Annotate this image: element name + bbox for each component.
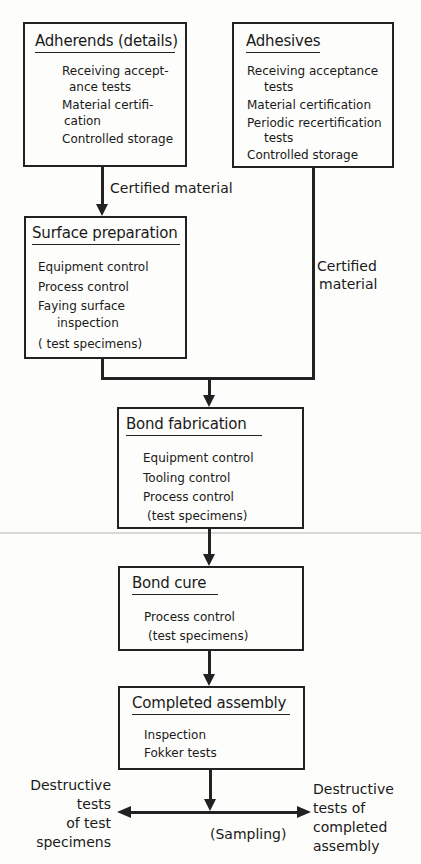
label-line: tests of bbox=[313, 799, 394, 818]
completed-assembly-line: Fokker tests bbox=[144, 746, 217, 760]
bond-fabrication-box: Bond fabrication Equipment control Tooli… bbox=[117, 407, 304, 529]
sampling-label: (Sampling) bbox=[210, 826, 286, 842]
adhesives-line: tests bbox=[264, 131, 293, 145]
adherends-line: Material certifi- bbox=[62, 98, 153, 112]
bond-cure-box: Bond cure Process control (test specimen… bbox=[118, 566, 304, 651]
surface-preparation-line: Process control bbox=[38, 280, 129, 294]
arrow-down-icon bbox=[204, 799, 216, 811]
connector-line bbox=[101, 167, 104, 205]
connector-line bbox=[209, 770, 212, 802]
bond-cure-line: Process control bbox=[144, 610, 235, 624]
adhesives-line: tests bbox=[264, 80, 293, 94]
bond-fabrication-line: Process control bbox=[143, 490, 234, 504]
bond-fabrication-line: Tooling control bbox=[143, 471, 230, 485]
adherends-title: Adherends (details) bbox=[35, 32, 175, 53]
surface-preparation-title: Surface preparation bbox=[32, 224, 180, 245]
adherends-line: Controlled storage bbox=[62, 132, 173, 146]
label-line: material bbox=[317, 275, 377, 293]
completed-assembly-box: Completed assembly Inspection Fokker tes… bbox=[118, 686, 305, 770]
adherends-box: Adherends (details) Receiving accept- an… bbox=[23, 22, 187, 167]
bond-fabrication-line: Equipment control bbox=[143, 451, 254, 465]
adhesives-line: Periodic recertification bbox=[247, 116, 382, 130]
connector-line bbox=[208, 378, 211, 396]
completed-assembly-line: Inspection bbox=[144, 728, 206, 742]
arrow-down-icon bbox=[96, 204, 108, 216]
completed-assembly-title: Completed assembly bbox=[132, 694, 290, 715]
certified-material-label: Certified material bbox=[110, 180, 233, 196]
label-line: tests bbox=[10, 795, 111, 814]
arrow-down-icon bbox=[203, 554, 215, 566]
adhesives-box: Adhesives Receiving acceptance tests Mat… bbox=[232, 22, 394, 168]
label-line: assembly bbox=[313, 837, 394, 856]
adhesives-line: Material certification bbox=[247, 98, 371, 112]
bond-fabrication-title: Bond fabrication bbox=[126, 415, 262, 436]
bond-cure-title: Bond cure bbox=[132, 574, 218, 595]
bond-fabrication-line: (test specimens) bbox=[147, 509, 247, 523]
connector-line bbox=[312, 168, 315, 380]
connector-line bbox=[208, 651, 211, 675]
surface-preparation-line: ( test specimens) bbox=[38, 337, 142, 351]
arrow-down-icon bbox=[203, 674, 215, 686]
surface-preparation-line: inspection bbox=[57, 316, 119, 330]
adhesives-title: Adhesives bbox=[246, 32, 320, 53]
sampling-line bbox=[128, 811, 300, 814]
arrow-down-icon bbox=[203, 395, 215, 407]
label-line: of test bbox=[10, 814, 111, 833]
left-outcome-label: Destructive tests of test specimens bbox=[10, 776, 111, 852]
adherends-line: ance tests bbox=[69, 80, 131, 94]
connector-line bbox=[208, 529, 211, 555]
adherends-line: cation bbox=[64, 114, 101, 128]
adherends-line: Receiving accept- bbox=[62, 64, 169, 78]
surface-preparation-box: Surface preparation Equipment control Pr… bbox=[24, 216, 187, 359]
bond-cure-line: (test specimens) bbox=[148, 629, 248, 643]
label-line: completed bbox=[313, 818, 394, 837]
arrow-left-icon bbox=[117, 806, 131, 818]
label-line: Destructive bbox=[313, 780, 394, 799]
right-outcome-label: Destructive tests of completed assembly bbox=[313, 780, 394, 856]
label-line: specimens bbox=[10, 833, 111, 852]
arrow-right-icon bbox=[297, 806, 311, 818]
surface-preparation-line: Equipment control bbox=[38, 260, 149, 274]
adhesives-line: Controlled storage bbox=[247, 148, 358, 162]
certified-material-label-right: Certified material bbox=[317, 257, 377, 293]
label-line: Certified bbox=[317, 257, 377, 275]
surface-preparation-line: Faying surface bbox=[38, 299, 125, 313]
label-line: Destructive bbox=[10, 776, 111, 795]
adhesives-line: Receiving acceptance bbox=[247, 64, 378, 78]
